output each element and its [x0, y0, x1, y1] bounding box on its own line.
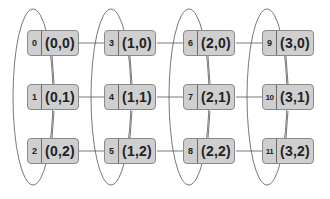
node-index: 10: [263, 85, 277, 109]
node-coord: (3,1): [277, 85, 313, 109]
node-11: 11 (3,2): [262, 138, 314, 164]
node-7: 7 (2,1): [183, 84, 235, 110]
node-coord: (1,2): [119, 139, 155, 163]
node-coord: (1,1): [119, 85, 155, 109]
node-coord: (1,0): [119, 31, 155, 55]
node-index: 11: [263, 139, 277, 163]
node-index: 3: [105, 31, 119, 55]
node-coord: (0,1): [42, 85, 78, 109]
node-index: 8: [184, 139, 198, 163]
node-9: 9 (3,0): [262, 30, 314, 56]
node-5: 5 (1,2): [104, 138, 156, 164]
node-coord: (3,0): [277, 31, 313, 55]
node-coord: (3,2): [277, 139, 313, 163]
node-8: 8 (2,2): [183, 138, 235, 164]
node-4: 4 (1,1): [104, 84, 156, 110]
node-coord: (0,0): [42, 31, 78, 55]
node-index: 0: [28, 31, 42, 55]
node-10: 10 (3,1): [262, 84, 314, 110]
node-coord: (2,2): [198, 139, 234, 163]
node-0: 0 (0,0): [27, 30, 79, 56]
node-index: 1: [28, 85, 42, 109]
node-index: 5: [105, 139, 119, 163]
node-coord: (2,1): [198, 85, 234, 109]
node-3: 3 (1,0): [104, 30, 156, 56]
node-coord: (2,0): [198, 31, 234, 55]
grid-diagram: 0 (0,0) 1 (0,1) 2 (0,2) 3 (1,0) 4 (1,1) …: [0, 0, 330, 199]
node-index: 9: [263, 31, 277, 55]
node-index: 2: [28, 139, 42, 163]
node-index: 4: [105, 85, 119, 109]
node-coord: (0,2): [42, 139, 78, 163]
node-1: 1 (0,1): [27, 84, 79, 110]
node-index: 7: [184, 85, 198, 109]
node-2: 2 (0,2): [27, 138, 79, 164]
node-6: 6 (2,0): [183, 30, 235, 56]
node-index: 6: [184, 31, 198, 55]
